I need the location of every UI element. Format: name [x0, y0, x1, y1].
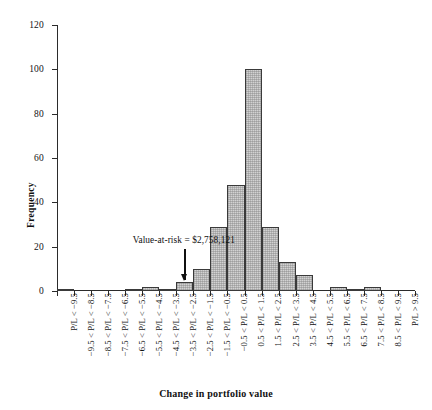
x-axis-tick-label: −1.5 < P/L < −0.5	[222, 293, 232, 356]
x-axis-tick-label: 4.5 < P/L < 5.5	[325, 293, 335, 346]
value-at-risk-annotation-label: Value-at-risk = $2,758,121	[133, 235, 235, 245]
x-axis-tick-label: −6.5 < P/L < −5.5	[137, 293, 147, 356]
histogram-bar	[347, 289, 364, 291]
x-axis-tick-label: −8.5 < P/L < −7.5	[103, 293, 113, 356]
x-axis-tick-label: −0.5 < P/L < 0.5	[239, 293, 249, 351]
y-axis-tick-label: 80	[34, 109, 44, 119]
histogram-bar	[159, 289, 176, 291]
histogram-bar	[296, 275, 313, 291]
x-axis-tick-label: 8.5 < P/L < 9.5	[393, 293, 403, 346]
x-axis-tick-label: −5.5 < P/L < −4.5	[154, 293, 164, 356]
histogram-bar	[176, 282, 193, 291]
x-axis-tick-label: 2.5 < P/L < 3.5	[291, 293, 301, 346]
histogram-bar	[125, 289, 142, 291]
y-axis-tick-label: 20	[34, 242, 44, 252]
histogram-bar	[245, 69, 262, 291]
histogram-bar	[193, 269, 210, 291]
histogram-figure: Frequency 020406080100120 Value-at-risk …	[0, 0, 432, 410]
histogram-bar	[142, 287, 159, 291]
x-axis-tick-labels: P/L < −9.5−9.5 < P/L < −8.5−8.5 < P/L < …	[57, 293, 415, 385]
histogram-bar	[262, 227, 279, 291]
x-axis-tick-label: −3.5 < P/L < −2.5	[188, 293, 198, 356]
x-axis-tick-label: −7.5 < P/L < −6.5	[120, 293, 130, 356]
arrow-head-icon	[181, 274, 187, 281]
y-axis-tick-label: 120	[29, 20, 44, 30]
y-axis-tick-label: 0	[39, 286, 44, 296]
x-axis-tick-label: 6.5 < P/L < 7.5	[359, 293, 369, 346]
value-at-risk-annotation-arrow	[181, 249, 189, 280]
x-axis-tick-label: −2.5 < P/L < −1.5	[205, 293, 215, 356]
histogram-bar	[279, 262, 296, 291]
x-axis-tick-label: 3.5 < P/L < 4.5	[308, 293, 318, 346]
x-axis-tick-label: −9.5 < P/L < −8.5	[86, 293, 96, 356]
y-axis-tick-label: 100	[29, 64, 44, 74]
y-axis-tick-label: 40	[34, 197, 44, 207]
histogram-bar	[330, 287, 347, 291]
x-axis-tick-label: P/L > 9.5	[410, 293, 420, 326]
x-axis-tick-label: −4.5 < P/L < −3.5	[171, 293, 181, 356]
y-axis-tick-label: 60	[34, 153, 44, 163]
x-axis-tick-label: 5.5 < P/L < 6.5	[342, 293, 352, 346]
bar-series	[57, 25, 415, 291]
x-axis-title: Change in portfolio value	[0, 388, 432, 399]
x-axis-tick-label: 1.5 < P/L < 2.5	[273, 293, 283, 346]
x-axis-tick-label: 0.5 < P/L < 1.5	[256, 293, 266, 346]
histogram-bar	[57, 289, 74, 291]
plot-area: 020406080100120 Value-at-risk = $2,758,1…	[57, 25, 415, 291]
x-axis-tick-label: P/L < −9.5	[69, 293, 79, 331]
histogram-bar	[364, 287, 381, 291]
x-axis-tick-label: 7.5 < P/L < 8.5	[376, 293, 386, 346]
